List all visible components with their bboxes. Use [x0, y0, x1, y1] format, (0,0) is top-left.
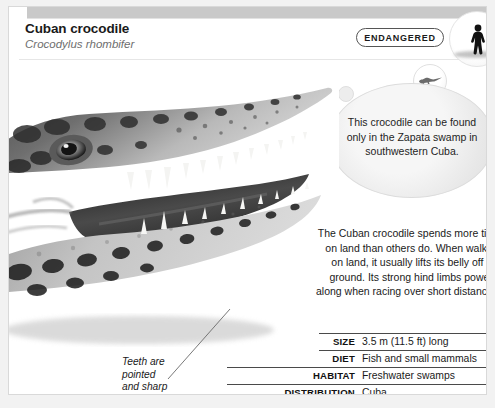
species-info-card-page: Cuban crocodile Crocodylus rhombifer END… [0, 0, 495, 408]
header-band [27, 7, 487, 18]
status-badge: ENDANGERED [356, 28, 444, 47]
fact-label: DIET [319, 351, 355, 364]
fact-label: HABITAT [227, 368, 355, 381]
table-row: SIZE 3.5 m (11.5 ft) long [319, 333, 487, 350]
fact-label: SIZE [319, 334, 355, 347]
fact-value: 3.5 m (11.5 ft) long [355, 334, 448, 347]
fact-value: Freshwater swamps [355, 368, 455, 381]
table-row: DISTRIBUTION Cuba [227, 384, 487, 395]
scientific-name: Crocodylus rhombifer [25, 37, 134, 51]
description-paragraph: The Cuban crocodile spends more time on … [315, 226, 487, 299]
table-row: HABITAT Freshwater swamps [227, 367, 487, 384]
teeth-annotation: Teeth are pointed and sharp [122, 356, 167, 394]
human-silhouette-icon [468, 24, 487, 56]
facts-table: SIZE 3.5 m (11.5 ft) long DIET Fish and … [227, 333, 487, 395]
teeth-annotation-line-1: Teeth are [122, 356, 167, 369]
fact-value: Fish and small mammals [355, 351, 477, 364]
annotation-leader-line [164, 307, 234, 382]
header-divider [19, 59, 484, 60]
callout-bubble-tail [338, 86, 354, 102]
callout-text: This crocodile can be found only in the … [339, 115, 485, 159]
page-title: Cuban crocodile [25, 21, 134, 36]
species-card: Cuban crocodile Crocodylus rhombifer END… [8, 6, 487, 395]
teeth-annotation-line-3: and sharp [122, 381, 167, 394]
fact-value: Cuba [355, 385, 387, 395]
table-row: DIET Fish and small mammals [319, 350, 487, 367]
teeth-annotation-line-2: pointed [122, 369, 167, 382]
title-block: Cuban crocodile Crocodylus rhombifer [25, 21, 134, 51]
status-badge-label: ENDANGERED [364, 33, 436, 43]
fact-label: DISTRIBUTION [227, 385, 355, 395]
